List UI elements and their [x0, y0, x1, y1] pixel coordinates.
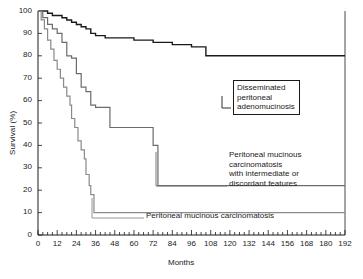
survival-curve-1 — [38, 11, 345, 56]
y-tick-label: 70 — [8, 73, 32, 82]
plot-area — [0, 0, 363, 279]
y-tick-label: 100 — [8, 6, 32, 15]
annotation-pmca: Peritoneal mucinous carcinomatosis — [146, 211, 274, 221]
annotation-line: with intermediate or — [229, 169, 301, 179]
annotation-line: peritoneal — [237, 93, 295, 103]
y-tick-label: 50 — [8, 118, 32, 127]
leader-lines — [92, 96, 231, 218]
leader-line-dpam — [222, 96, 231, 108]
x-tick-label: 192 — [331, 239, 359, 248]
y-tick-label: 60 — [8, 95, 32, 104]
y-tick-label: 20 — [8, 185, 32, 194]
leader-line-pmca — [92, 198, 144, 218]
y-tick-label: 10 — [8, 207, 32, 216]
annotation-line: discordant features — [229, 179, 301, 189]
y-tick-label: 40 — [8, 140, 32, 149]
y-tick-label: 0 — [8, 230, 32, 239]
annotation-line: carcinomatosis — [229, 160, 301, 170]
x-axis-title: Months — [168, 258, 194, 267]
y-tick-label: 30 — [8, 162, 32, 171]
annotation-line: Peritoneal mucinous — [229, 150, 301, 160]
annotation-line: Disseminated — [237, 83, 295, 93]
annotation-dpam: Disseminatedperitonealadenomucinosis — [233, 80, 300, 115]
annotation-line: Peritoneal mucinous carcinomatosis — [146, 211, 274, 221]
annotation-pmca-intermediate: Peritoneal mucinouscarcinomatosiswith in… — [229, 150, 301, 188]
y-tick-label: 80 — [8, 50, 32, 59]
y-tick-label: 90 — [8, 28, 32, 37]
leader-line-pmca-intermediate — [156, 152, 227, 186]
annotation-line: adenomucinosis — [237, 102, 295, 112]
survival-chart: Survival (%) Months 01224364860728496108… — [0, 0, 363, 279]
